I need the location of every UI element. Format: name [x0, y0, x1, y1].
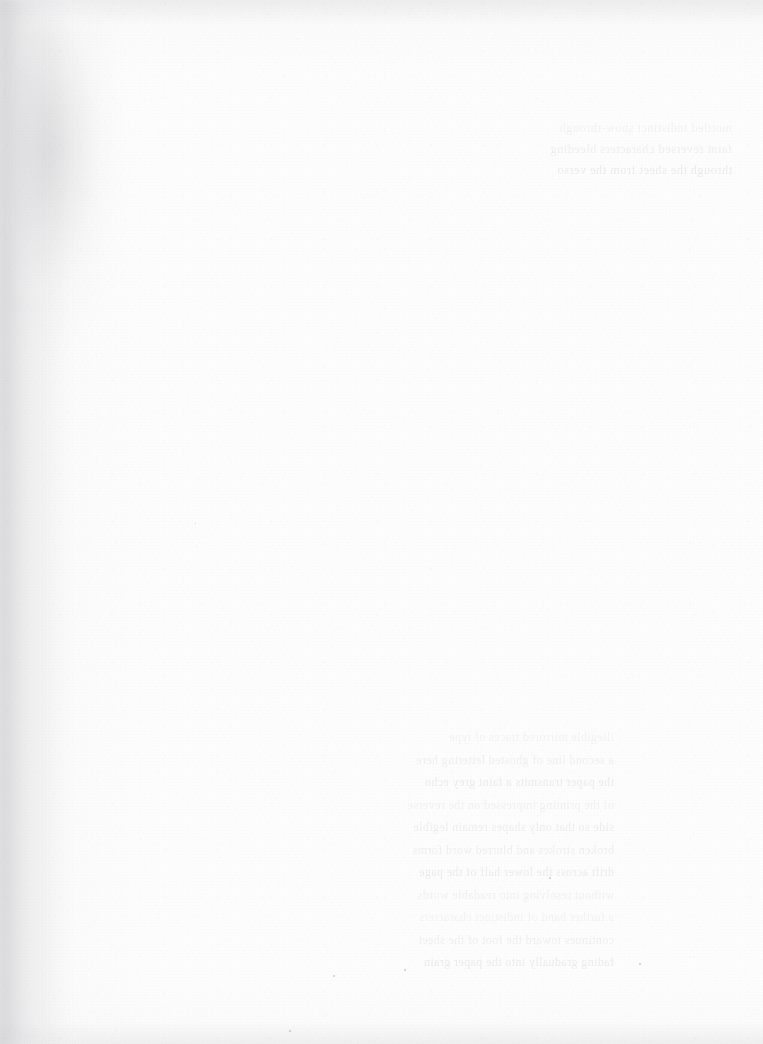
paper-speck: [289, 1030, 291, 1032]
ghost-text-line: the paper transmits a faint grey echo: [216, 771, 614, 794]
gutter-edge-streak: [0, 0, 70, 1044]
ghost-text-line: a further band of indistinct characters: [209, 906, 614, 929]
ghost-text-line: faint reversed characters bleeding: [453, 139, 732, 160]
ghost-text-line: drift across the lower half of the page: [207, 861, 614, 884]
paper-grain-coarse: [0, 0, 763, 1044]
ghost-text-line: continues toward the foot of the sheet: [222, 929, 614, 952]
ghost-text-line: broken strokes and blurred word forms: [194, 839, 614, 862]
paper-speck: [639, 963, 641, 965]
ghost-text-line: a second line of ghosted lettering here: [203, 749, 614, 772]
paper-speck: [549, 877, 551, 879]
ghost-text-line: illegible mirrored traces of type: [190, 726, 614, 749]
scanned-page: mottled indistinct show-throughfaint rev…: [0, 0, 763, 1044]
paper-speck: [404, 969, 406, 971]
paper-speck: [195, 523, 196, 524]
show-through-text-lower-center: illegible mirrored traces of typea secon…: [190, 726, 614, 974]
show-through-text-top-right: mottled indistinct show-throughfaint rev…: [440, 118, 732, 181]
paper-speck: [333, 975, 335, 977]
ghost-text-line: without resolving into readable words: [220, 884, 614, 907]
paper-grain-texture: [0, 0, 763, 1044]
ghost-text-line: through the sheet from the verso: [466, 160, 732, 181]
ghost-text-line: fading gradually into the paper grain: [198, 951, 614, 974]
ghost-text-line: side so that only shapes remain legible: [205, 816, 614, 839]
ghost-text-line: mottled indistinct show-through: [440, 118, 732, 139]
ghost-text-line: of the printing impressed on the reverse: [192, 794, 614, 817]
binding-gutter-shadow: [10, 24, 128, 392]
